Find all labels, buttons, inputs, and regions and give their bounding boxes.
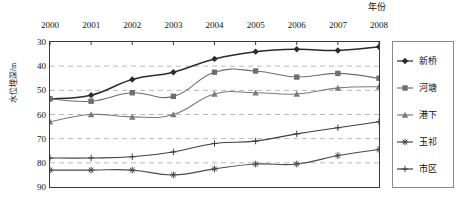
marker-square [212,70,217,75]
marker-plus [170,149,176,155]
legend-label-港下: 港下 [419,109,437,121]
marker-asterisk [211,165,218,172]
marker-square [335,71,340,76]
series-港下 [50,84,379,125]
legend-marker-asterisk-icon [393,133,419,151]
marker-square [376,76,379,81]
marker-plus [129,154,135,160]
legend-label-新桥: 新桥 [419,55,437,67]
y-tick-label-60: 60 [6,109,46,121]
y-tick-label-90: 90 [6,181,46,193]
marker-square [50,96,53,101]
x-tick-label-2002: 2002 [112,19,152,31]
marker-plus [402,166,408,172]
plot-area [49,41,380,188]
marker-asterisk [50,167,53,174]
x-tick-label-2004: 2004 [195,19,235,31]
marker-square [130,90,135,95]
y-tick-label-80: 80 [6,157,46,169]
marker-diamond [376,44,379,50]
series-line-市区 [50,122,379,158]
y-tick-label-50: 50 [6,84,46,96]
x-axis-title: 年份 [368,2,428,13]
marker-diamond [294,46,300,52]
legend-item-港下[interactable]: 港下 [393,106,455,124]
x-tick-label-2006: 2006 [277,19,317,31]
legend-marker-plus-icon [393,160,419,178]
legend-marker-triangle-icon [393,106,419,124]
marker-plus [376,119,379,125]
x-tick-label-2003: 2003 [153,19,193,31]
legend-label-河塘: 河塘 [419,82,437,94]
legend-item-河塘[interactable]: 河塘 [393,79,455,97]
marker-asterisk [334,152,341,159]
marker-diamond [211,56,217,62]
x-axis-tick-labels: 200020012002200320042005200620072008 [0,19,459,32]
marker-plus [294,131,300,137]
x-tick-label-2008: 2008 [359,19,399,31]
marker-asterisk [252,161,259,168]
marker-square [253,68,258,73]
marker-square [402,85,407,90]
y-tick-label-70: 70 [6,133,46,145]
marker-diamond [170,69,176,75]
series-河塘 [50,68,379,104]
y-axis-tick-labels: 30405060708090 [0,0,49,206]
legend-label-市区: 市区 [419,163,437,175]
legend-item-玉祁[interactable]: 玉祁 [393,133,455,151]
marker-asterisk [376,146,379,153]
x-tick-label-2005: 2005 [236,19,276,31]
legend-marker-square-icon [393,79,419,97]
legend-item-新桥[interactable]: 新桥 [393,52,455,70]
marker-plus [50,155,53,161]
marker-square [171,94,176,99]
marker-asterisk [293,161,300,168]
series-市区 [50,119,379,162]
legend-item-市区[interactable]: 市区 [393,160,455,178]
marker-asterisk [88,167,95,174]
marker-plus [88,155,94,161]
chart-legend: 新桥河塘港下玉祁市区 [392,41,454,188]
marker-asterisk [402,139,409,146]
x-tick-label-2007: 2007 [318,19,358,31]
marker-plus [335,125,341,131]
marker-asterisk [170,172,177,179]
y-tick-label-30: 30 [6,36,46,48]
marker-square [88,99,93,104]
series-玉祁 [50,146,379,178]
marker-diamond [402,58,408,64]
marker-diamond [252,48,258,54]
plot-svg [50,42,379,187]
marker-plus [211,140,217,146]
legend-marker-diamond-icon [393,52,419,70]
marker-diamond [129,76,135,82]
marker-diamond [88,92,94,98]
x-tick-label-2001: 2001 [71,19,111,31]
marker-square [294,74,299,79]
marker-asterisk [129,167,136,174]
legend-label-玉祁: 玉祁 [419,136,437,148]
y-tick-label-40: 40 [6,60,46,72]
marker-diamond [335,47,341,53]
chart-root: 年份 200020012002200320042005200620072008 … [0,0,459,206]
